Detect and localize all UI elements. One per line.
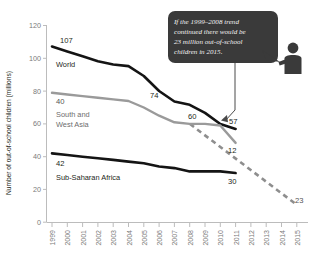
callout-line-4: children in 2015. <box>174 48 223 56</box>
south-west-asia-series-name-line1: South and <box>56 110 90 119</box>
world-2010-value-label: 60 <box>188 112 196 121</box>
x-tick-label: 1999 <box>49 230 56 246</box>
x-tick-label: 2010 <box>217 230 224 246</box>
x-tick-label: 2003 <box>110 230 117 246</box>
world-start-value-label: 107 <box>60 36 73 45</box>
world-2007-value-label: 74 <box>150 91 158 100</box>
x-tick-label: 2015 <box>294 230 301 246</box>
x-tick-label: 2014 <box>279 230 286 246</box>
callout-line-3: 23 million out-of-school <box>174 38 243 46</box>
chart-container: Number of out-of-school children (millio… <box>0 0 316 266</box>
person-pointing-icon <box>279 43 302 74</box>
series-line-projected-trend <box>190 124 297 205</box>
sub-saharan-africa-start-value-label: 42 <box>56 159 64 168</box>
callout-line-2: continued there would be <box>174 28 246 36</box>
x-tick-label: 2002 <box>95 230 102 246</box>
y-tick-label: 100 <box>29 54 41 63</box>
x-tick-label: 2004 <box>126 230 133 246</box>
world-series-name: World <box>56 60 75 69</box>
y-tick-label: 80 <box>33 87 41 96</box>
y-tick-label: 40 <box>33 152 41 161</box>
sub-saharan-africa-series-name: Sub-Saharan Africa <box>56 173 121 182</box>
x-tick-label: 2000 <box>64 230 71 246</box>
y-axis-title-text: Number of out-of-school children (millio… <box>5 71 13 195</box>
x-tick-label: 2001 <box>80 230 87 246</box>
y-tick-label: 20 <box>33 185 41 194</box>
callout-bubble: If the 1999–2008 trend continued there w… <box>168 11 280 63</box>
south-west-asia-start-value-label: 40 <box>56 97 64 106</box>
x-tick-label: 2007 <box>171 230 178 246</box>
x-tick-label: 2012 <box>248 230 255 246</box>
y-tick-label: 60 <box>33 119 41 128</box>
series-line-sub-saharan-africa <box>52 153 236 173</box>
south-west-asia-series-name-line2: West Asia <box>56 120 90 129</box>
projected-trend-end-value-label: 23 <box>295 196 303 205</box>
x-tick-label: 2005 <box>141 230 148 246</box>
y-tick-label: 120 <box>29 21 41 30</box>
x-tick-label: 2006 <box>156 230 163 246</box>
y-axis-title: Number of out-of-school children (millio… <box>5 71 13 195</box>
y-tick-label: 0 <box>37 218 41 227</box>
x-axis-ticks: 1999 2000 2001 2002 2003 2004 2005 2006 … <box>49 223 301 246</box>
x-tick-label: 2008 <box>187 230 194 246</box>
south-west-asia-end-value-label: 12 <box>228 146 236 155</box>
world-end-value-label: 57 <box>229 117 237 126</box>
line-chart: Number of out-of-school children (millio… <box>0 0 316 266</box>
callout-line-1: If the 1999–2008 trend <box>173 18 239 26</box>
sub-saharan-africa-end-value-label: 30 <box>228 177 236 186</box>
x-tick-label: 2011 <box>233 230 240 245</box>
y-axis-ticks: 120 100 80 60 40 20 0 <box>29 21 47 227</box>
x-tick-label: 2013 <box>263 230 270 246</box>
callout-pointer <box>221 62 235 125</box>
x-tick-label: 2009 <box>202 230 209 246</box>
